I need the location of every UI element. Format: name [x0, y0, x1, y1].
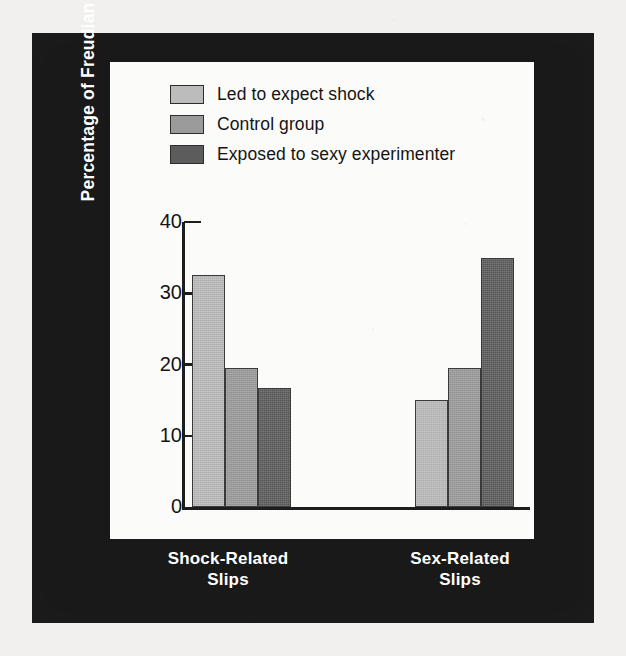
x-category-label-sex: Sex-Related Slips: [372, 549, 548, 590]
y-axis-title: Percentage of Freudian Slips: [78, 0, 99, 238]
bar: [192, 275, 225, 507]
bar: [415, 400, 448, 507]
bar: [258, 388, 291, 507]
x-category-label-sex-line2: Slips: [372, 570, 548, 591]
x-category-label-shock: Shock-Related Slips: [140, 549, 316, 590]
x-category-label-sex-line1: Sex-Related: [372, 549, 548, 570]
bars-layer: [110, 62, 534, 539]
bar: [225, 368, 258, 507]
bar: [481, 258, 514, 507]
figure-panel: Percentage of Freudian Slips Shock-Relat…: [32, 33, 594, 623]
x-category-label-shock-line1: Shock-Related: [140, 549, 316, 570]
bar: [448, 368, 481, 507]
plot-area: Led to expect shock Control group Expose…: [110, 62, 534, 539]
x-category-label-shock-line2: Slips: [140, 570, 316, 591]
